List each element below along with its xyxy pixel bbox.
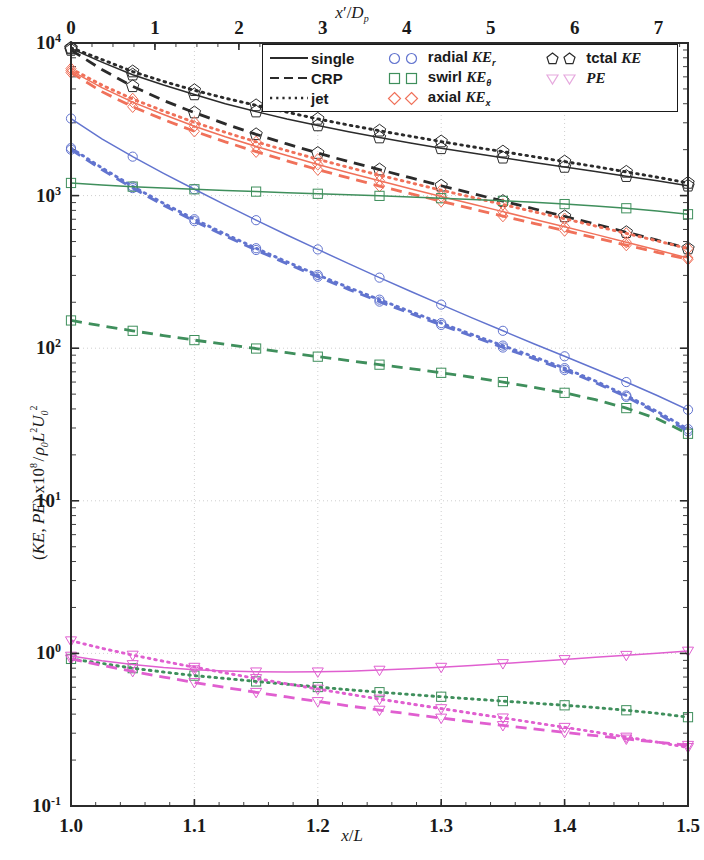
- legend-label-radial: radial KEr: [428, 48, 496, 68]
- square-marker-icon-2: [403, 69, 420, 87]
- triangle-down-marker-icon: [544, 69, 561, 87]
- circle-marker-icon: [386, 49, 403, 67]
- legend-entry-axial[interactable]: axial KEx: [386, 88, 544, 108]
- legend-label-single: single: [311, 50, 354, 67]
- line-solid-icon: [267, 50, 311, 66]
- legend-entry-radial[interactable]: radial KEr: [386, 48, 544, 68]
- x-axis-label: x/L: [0, 826, 704, 846]
- y-tick-label-1: 100: [36, 641, 61, 663]
- legend-entry-single[interactable]: single: [267, 48, 386, 68]
- series-line-swirl-KE-CRP: [71, 320, 688, 433]
- figure-root: 1.01.11.21.31.41.50123456710-11001011021…: [0, 0, 704, 860]
- pentagon-marker-icon: [544, 49, 561, 67]
- line-dotted-icon: [267, 90, 311, 106]
- legend: single CRP jet: [262, 44, 678, 112]
- legend-entry-jet[interactable]: jet: [267, 88, 386, 108]
- y-axis-label-text: (KE, PE) x108 / ρ0L2U02: [29, 405, 48, 560]
- triangle-down-marker-icon-2: [561, 69, 578, 87]
- series-line-swirl-KE-single: [71, 183, 688, 214]
- legend-entry-swirl[interactable]: swirl KEθ: [386, 68, 544, 88]
- series-line-radial-KE-jet: [71, 148, 688, 429]
- x-axis-label-text: x/L: [341, 826, 363, 845]
- legend-label-swirl: swirl KEθ: [428, 68, 491, 88]
- circle-marker-icon-2: [403, 49, 420, 67]
- y-tick-label-0: 10-1: [32, 794, 61, 816]
- legend-entry-pe[interactable]: PE: [544, 68, 673, 88]
- diamond-marker-icon-2: [403, 89, 420, 107]
- legend-column-totals: tctal KE PE: [544, 48, 673, 108]
- legend-label-total-ke: tctal KE: [586, 49, 641, 67]
- plot-canvas: 1.01.11.21.31.41.50123456710-11001011021…: [0, 0, 704, 860]
- y-tick-label-3: 102: [36, 336, 61, 358]
- y-tick-label-4: 103: [36, 184, 61, 206]
- legend-label-pe: PE: [586, 69, 605, 87]
- legend-label-jet: jet: [311, 90, 329, 107]
- diamond-marker-icon: [386, 89, 403, 107]
- line-dashed-icon: [267, 70, 311, 86]
- legend-column-linestyle: single CRP jet: [267, 48, 386, 108]
- square-marker-icon: [386, 69, 403, 87]
- data-marker-pentagon: [312, 147, 324, 159]
- y-axis-label: (KE, PE) x108 / ρ0L2U02: [28, 405, 50, 560]
- legend-column-components: radial KEr swirl KEθ: [386, 48, 544, 108]
- legend-label-crp: CRP: [311, 70, 343, 87]
- legend-entry-total-ke[interactable]: tctal KE: [544, 48, 673, 68]
- pentagon-marker-icon-2: [561, 49, 578, 67]
- legend-label-axial: axial KEx: [428, 88, 491, 108]
- top-axis-label-text: x′/Dp: [335, 3, 368, 22]
- legend-entry-crp[interactable]: CRP: [267, 68, 386, 88]
- y-tick-label-5: 104: [36, 31, 61, 53]
- data-marker-triangle-down: [251, 668, 262, 677]
- top-axis-label: x′/Dp: [0, 3, 704, 24]
